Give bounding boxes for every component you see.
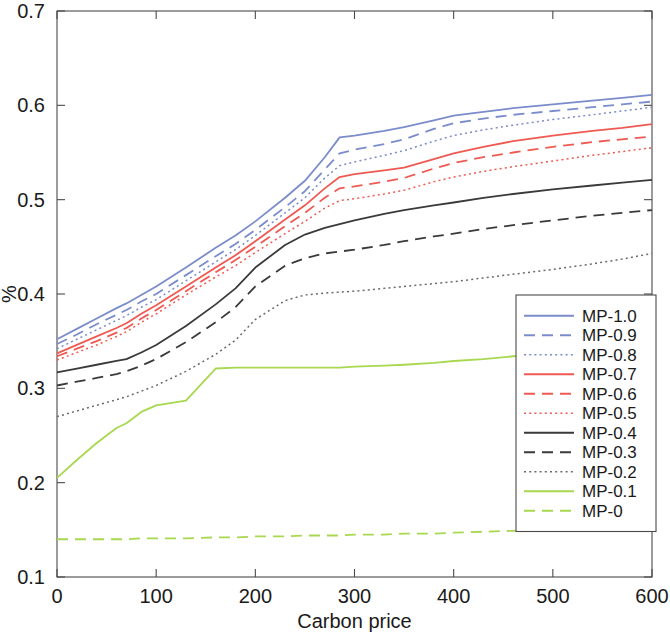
- y-tick-label: 0.7: [17, 0, 45, 22]
- y-tick-label: 0.1: [17, 566, 45, 588]
- legend-label-mp-0-9: MP-0.9: [582, 326, 637, 345]
- x-tick-label: 300: [338, 585, 371, 607]
- line-chart-figure: 01002003004005006000.10.20.30.40.50.60.7…: [0, 0, 670, 637]
- legend-label-mp-0-4: MP-0.4: [582, 424, 637, 443]
- legend-label-mp-0-5: MP-0.5: [582, 404, 637, 423]
- legend-label-mp-1-0: MP-1.0: [582, 307, 637, 326]
- x-tick-label: 100: [139, 585, 172, 607]
- y-tick-label: 0.6: [17, 94, 45, 116]
- x-tick-label: 600: [635, 585, 668, 607]
- legend-label-mp-0-7: MP-0.7: [582, 365, 637, 384]
- y-tick-label: 0.2: [17, 472, 45, 494]
- chart-canvas: 01002003004005006000.10.20.30.40.50.60.7…: [0, 0, 670, 637]
- x-axis-title: Carbon price: [297, 610, 412, 632]
- legend-label-mp-0-8: MP-0.8: [582, 346, 637, 365]
- y-tick-label: 0.4: [17, 283, 45, 305]
- legend-label-mp-0-2: MP-0.2: [582, 463, 637, 482]
- legend-label-mp-0-6: MP-0.6: [582, 385, 637, 404]
- y-tick-label: 0.5: [17, 189, 45, 211]
- legend-label-mp-0-3: MP-0.3: [582, 443, 637, 462]
- y-axis-title: %: [0, 285, 20, 303]
- legend-label-mp-0-1: MP-0.1: [582, 482, 637, 501]
- x-tick-label: 500: [536, 585, 569, 607]
- x-tick-label: 0: [51, 585, 62, 607]
- x-tick-label: 400: [437, 585, 470, 607]
- y-tick-label: 0.3: [17, 377, 45, 399]
- legend-label-mp-0: MP-0: [582, 502, 623, 521]
- legend: MP-1.0MP-0.9MP-0.8MP-0.7MP-0.6MP-0.5MP-0…: [516, 295, 656, 532]
- x-tick-label: 200: [239, 585, 272, 607]
